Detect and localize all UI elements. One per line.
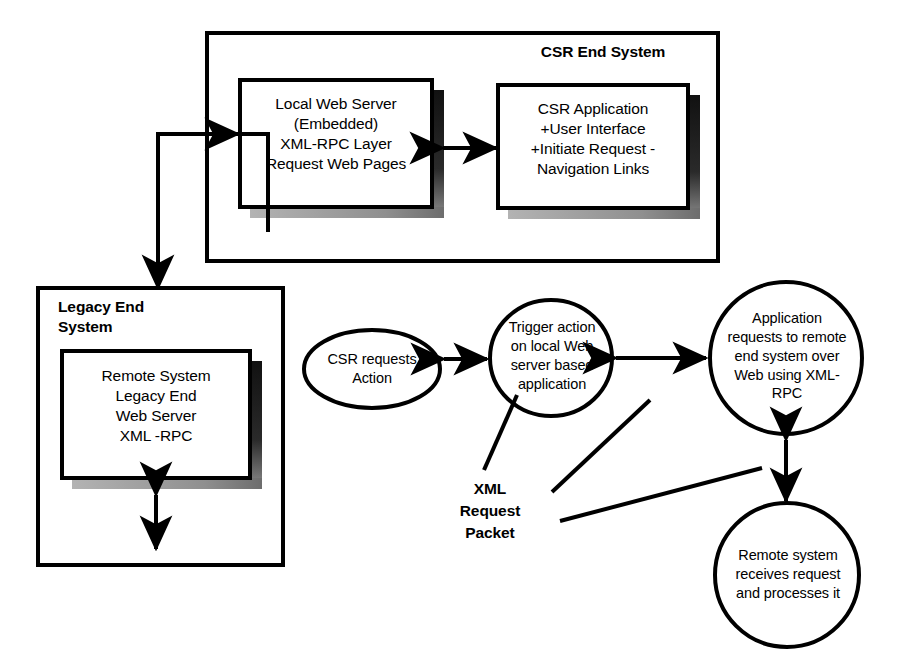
diagram-vector-layer <box>0 0 903 663</box>
node-trigger-action <box>490 300 612 416</box>
node-csr-requests-action <box>304 330 440 408</box>
csr-application-box <box>498 85 688 208</box>
leader-line-to-remote-arrow <box>560 468 762 521</box>
path-csr-to-legacy-end-system <box>158 134 201 281</box>
diagram-canvas: CSR End System Local Web Server (Embedde… <box>0 0 903 663</box>
node-remote-system-receives <box>715 503 859 647</box>
node-application-requests <box>710 282 862 434</box>
leader-line-to-trigger-arrow <box>484 395 517 470</box>
remote-system-box <box>62 351 250 478</box>
